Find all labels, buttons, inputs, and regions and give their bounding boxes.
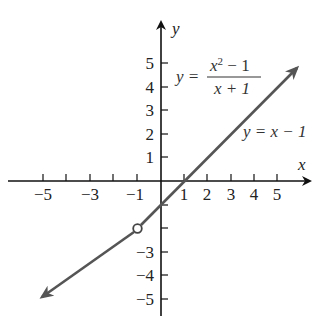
equation-linear: y = x − 1 xyxy=(241,122,307,141)
svg-text:3: 3 xyxy=(146,101,155,120)
svg-text:2: 2 xyxy=(203,185,212,204)
svg-text:y =: y = xyxy=(174,67,199,86)
svg-text:1: 1 xyxy=(146,148,155,167)
hole-point xyxy=(133,224,142,233)
svg-text:1: 1 xyxy=(180,185,189,204)
svg-text:−5: −5 xyxy=(34,185,52,204)
svg-text:−5: −5 xyxy=(136,290,154,309)
x-ticks xyxy=(43,174,277,181)
equation-rational: y = x2 − 1 x + 1 xyxy=(174,55,261,98)
svg-text:−1: −1 xyxy=(126,185,144,204)
y-axis-label: y xyxy=(170,19,180,38)
x-axis-label: x xyxy=(297,155,306,174)
svg-text:4: 4 xyxy=(250,185,259,204)
svg-text:4: 4 xyxy=(146,78,155,97)
svg-text:x2 − 1: x2 − 1 xyxy=(209,55,250,75)
svg-text:x + 1: x + 1 xyxy=(213,79,250,98)
line-lower-segment xyxy=(42,232,134,297)
svg-text:3: 3 xyxy=(227,185,236,204)
graph: −5 −3 −1 1 2 3 4 5 5 4 3 2 1 −3 −4 −5 y … xyxy=(0,0,329,328)
x-tick-labels: −5 −3 −1 1 2 3 4 5 xyxy=(34,185,281,204)
svg-text:−3: −3 xyxy=(136,243,154,262)
svg-text:−3: −3 xyxy=(81,185,99,204)
svg-text:5: 5 xyxy=(273,185,282,204)
svg-text:−4: −4 xyxy=(136,266,155,285)
svg-text:2: 2 xyxy=(146,125,155,144)
svg-text:5: 5 xyxy=(146,54,155,73)
